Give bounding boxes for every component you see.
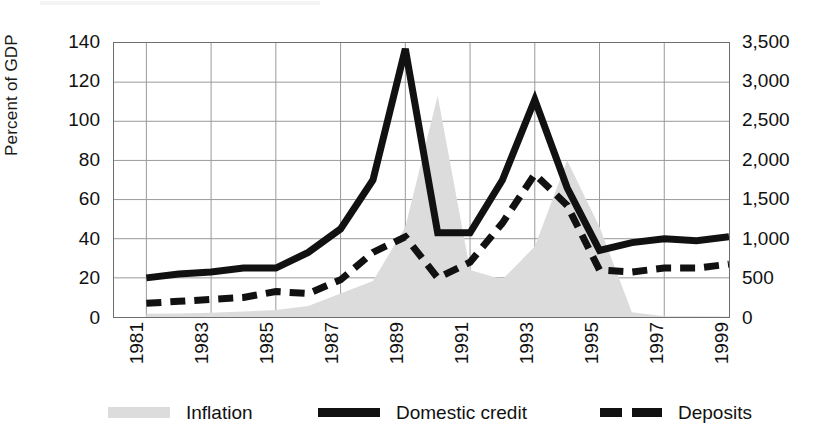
y-tick-left: 60 xyxy=(79,188,100,210)
area-swatch-icon xyxy=(108,407,170,418)
x-axis-ticks: 1981 1983 1985 1987 1989 1991 1993 1995 … xyxy=(113,322,730,394)
y-axis-title-left: Percent of GDP xyxy=(2,0,28,156)
legend-item-inflation: Inflation xyxy=(108,396,253,428)
x-tick-1995: 1995 xyxy=(582,322,602,392)
y-tick-left: 40 xyxy=(79,228,100,250)
y-axis-left-ticks: 140 120 100 80 60 40 20 0 xyxy=(28,0,100,340)
y-tick-left: 120 xyxy=(68,70,100,92)
y-tick-right: 3,000 xyxy=(742,70,790,92)
legend-label-deposits: Deposits xyxy=(678,403,752,422)
series-area-inflation xyxy=(146,96,729,317)
dashed-line-swatch-icon xyxy=(600,408,662,417)
x-tick-1997: 1997 xyxy=(647,322,667,392)
legend-item-deposits: Deposits xyxy=(600,396,752,428)
x-tick-1999: 1999 xyxy=(712,322,732,392)
x-tick-1983: 1983 xyxy=(192,322,212,392)
legend-item-domestic-credit: Domestic credit xyxy=(318,396,527,428)
y-axis-right-ticks: 3,500 3,000 2,500 2,000 1,500 1,000 500 … xyxy=(742,0,822,340)
x-tick-1987: 1987 xyxy=(322,322,342,392)
y-tick-right: 500 xyxy=(742,267,774,289)
x-tick-1991: 1991 xyxy=(452,322,472,392)
y-tick-left: 20 xyxy=(79,267,100,289)
x-tick-1981: 1981 xyxy=(127,322,147,392)
x-tick-1993: 1993 xyxy=(517,322,537,392)
y-tick-left: 140 xyxy=(68,31,100,53)
y-tick-left: 80 xyxy=(79,149,100,171)
solid-line-swatch-icon xyxy=(318,408,380,417)
y-tick-right: 3,500 xyxy=(742,31,790,53)
y-tick-right: 2,500 xyxy=(742,109,790,131)
y-tick-left: 100 xyxy=(68,109,100,131)
legend-label-domestic-credit: Domestic credit xyxy=(396,403,527,422)
legend-label-inflation: Inflation xyxy=(186,403,253,422)
y-tick-right: 1,000 xyxy=(742,228,790,250)
y-tick-right: 1,500 xyxy=(742,188,790,210)
y-tick-left: 0 xyxy=(89,307,100,329)
x-tick-1985: 1985 xyxy=(257,322,277,392)
x-tick-1989: 1989 xyxy=(387,322,407,392)
chart-legend: Inflation Domestic credit Deposits xyxy=(0,396,823,430)
series-layer xyxy=(146,49,729,317)
plot-area xyxy=(113,42,730,318)
y-tick-right: 2,000 xyxy=(742,149,790,171)
chart-canvas xyxy=(114,43,729,317)
y-tick-right: 0 xyxy=(742,307,753,329)
chart-figure: Percent of GDP 140 120 100 80 60 40 20 0… xyxy=(0,0,823,438)
